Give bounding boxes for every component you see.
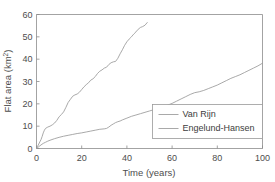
line-chart: 020406080100 0102030405060 Time (years) …	[0, 0, 275, 182]
x-tick-label: 40	[122, 153, 132, 163]
y-tick-label: 30	[22, 77, 32, 87]
y-tick-label: 10	[22, 121, 32, 131]
legend-label-engelund-hansen: Engelund-Hansen	[183, 123, 255, 133]
x-axis-ticks: 020406080100	[34, 146, 270, 163]
x-axis-title: Time (years)	[123, 167, 176, 178]
chart-legend[interactable]: Van Rijn Engelund-Hansen	[153, 105, 263, 139]
plot-axes: 020406080100 0102030405060	[22, 10, 270, 163]
y-axis-label-main: Flat area (km	[2, 56, 13, 112]
x-tick-label: 80	[212, 153, 222, 163]
x-tick-label: 60	[167, 153, 177, 163]
x-tick-label: 20	[77, 153, 87, 163]
y-axis-ticks: 0102030405060	[22, 10, 39, 154]
y-tick-label: 40	[22, 54, 32, 64]
y-tick-label: 60	[22, 10, 32, 20]
x-tick-label: 100	[255, 153, 270, 163]
y-axis-label-close: )	[2, 50, 13, 53]
series-line-van-rijn	[37, 23, 148, 149]
y-tick-label: 0	[27, 144, 32, 154]
y-axis-title: Flat area (km2)	[2, 50, 13, 113]
y-tick-label: 20	[22, 99, 32, 109]
y-tick-label: 50	[22, 32, 32, 42]
y-axis-label: Flat area (km2)	[2, 50, 13, 113]
chart-figure: 020406080100 0102030405060 Time (years) …	[0, 0, 275, 182]
x-axis-label: Time (years)	[123, 167, 176, 178]
legend-label-van-rijn: Van Rijn	[183, 109, 216, 119]
x-tick-label: 0	[34, 153, 39, 163]
